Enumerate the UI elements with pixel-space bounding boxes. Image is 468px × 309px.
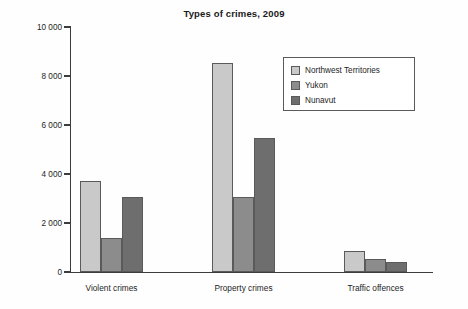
bar [101, 238, 122, 272]
y-tick-label-0: 0 [6, 268, 62, 277]
bar [233, 197, 254, 272]
y-axis-line [70, 27, 71, 273]
y-tick-label-6000: 6 000 [6, 121, 62, 130]
category-label: Property crimes [214, 283, 272, 293]
y-tick-2000 [64, 222, 71, 223]
bar [344, 251, 365, 272]
y-tick-label-10000: 10 000 [6, 23, 62, 32]
bar [386, 262, 407, 272]
legend-swatch-icon [291, 66, 300, 75]
bar [212, 63, 233, 272]
bar [365, 259, 386, 272]
y-tick-8000 [64, 75, 71, 76]
legend-label: Northwest Territories [305, 66, 380, 75]
y-tick-6000 [64, 124, 71, 125]
legend-item: Yukon [291, 78, 414, 93]
legend-label: Yukon [305, 81, 328, 90]
y-tick-10000 [64, 26, 71, 27]
y-tick-label-4000: 4 000 [6, 170, 62, 179]
legend-item: Northwest Territories [291, 63, 414, 78]
y-tick-0 [64, 271, 71, 272]
bar [80, 181, 101, 272]
category-label: Violent crimes [86, 283, 138, 293]
y-tick-4000 [64, 173, 71, 174]
legend-label: Nunavut [305, 96, 336, 105]
y-tick-label-8000: 8 000 [6, 72, 62, 81]
category-label: Traffic offences [347, 283, 403, 293]
bar [122, 197, 143, 272]
legend-swatch-icon [291, 81, 300, 90]
plot-area: 02 0004 0006 0008 00010 000 Violent crim… [0, 0, 468, 309]
legend-swatch-icon [291, 96, 300, 105]
chart-legend: Northwest TerritoriesYukonNunavut [283, 57, 415, 111]
bar [254, 138, 275, 272]
y-tick-label-2000: 2 000 [6, 219, 62, 228]
legend-item: Nunavut [291, 93, 414, 108]
crime-bar-chart: Types of crimes, 2009 02 0004 0006 0008 … [0, 0, 468, 309]
